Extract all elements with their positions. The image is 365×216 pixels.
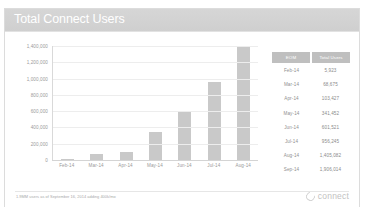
x-axis-tick-label: Jul-14 bbox=[199, 163, 228, 175]
grid-line bbox=[53, 95, 258, 96]
y-axis-tick-label: 600,000 bbox=[31, 109, 48, 114]
x-axis-tick-label: May-14 bbox=[140, 163, 169, 175]
bar[interactable] bbox=[208, 82, 221, 160]
cell-total-users: 341,452 bbox=[311, 111, 350, 116]
table-row: Aug-141,405,082 bbox=[272, 149, 350, 163]
bar[interactable] bbox=[149, 132, 162, 160]
table-header-total-users: Total Users bbox=[312, 52, 350, 63]
page-title: Total Connect Users bbox=[14, 12, 125, 26]
cell-eom: Apr-14 bbox=[272, 96, 311, 101]
x-axis-labels: Feb-14Mar-14Apr-14May-14Jun-14Jul-14Aug-… bbox=[52, 163, 258, 175]
table-row: Jul-14956,245 bbox=[272, 134, 350, 148]
cell-total-users: 103,427 bbox=[311, 96, 350, 101]
cell-eom: Aug-14 bbox=[272, 153, 311, 158]
cell-eom: Sep-14 bbox=[272, 167, 311, 172]
table-row: May-14341,452 bbox=[272, 106, 350, 120]
x-axis-tick-label: Feb-14 bbox=[52, 163, 81, 175]
x-axis-tick-label: Mar-14 bbox=[81, 163, 110, 175]
bar[interactable] bbox=[120, 152, 133, 160]
cell-total-users: 956,245 bbox=[311, 139, 350, 144]
y-axis-labels: 1,400,0001,200,0001,000,000800,000600,00… bbox=[17, 46, 50, 160]
cell-total-users: 68,675 bbox=[311, 82, 350, 87]
x-axis-line bbox=[52, 160, 258, 161]
brand-label: connect bbox=[318, 191, 349, 201]
x-axis-tick-label: Jun-14 bbox=[170, 163, 199, 175]
dashboard-card: Total Connect Users 1,400,0001,200,0001,… bbox=[4, 8, 360, 207]
grid-line bbox=[53, 46, 258, 47]
table-row: Sep-141,906,014 bbox=[272, 163, 350, 177]
cell-total-users: 1,405,082 bbox=[311, 153, 350, 158]
table-row: Jun-14601,521 bbox=[272, 120, 350, 134]
card-header: Total Connect Users bbox=[5, 9, 359, 32]
footnote: 1.9MM users as of September 16, 2014 add… bbox=[16, 194, 116, 199]
card-body: 1,400,0001,200,0001,000,000800,000600,00… bbox=[5, 32, 359, 207]
cell-eom: Jul-14 bbox=[272, 139, 311, 144]
page-top-strip bbox=[0, 0, 365, 7]
bar[interactable] bbox=[178, 111, 191, 160]
y-axis-tick-label: 0 bbox=[45, 158, 48, 163]
table-row: Apr-14103,427 bbox=[272, 92, 350, 106]
brand-logo: connect bbox=[306, 191, 349, 201]
grid-line bbox=[53, 79, 258, 80]
cell-total-users: 601,521 bbox=[311, 125, 350, 130]
cell-eom: Jun-14 bbox=[272, 125, 311, 130]
x-axis-tick-label: Apr-14 bbox=[111, 163, 140, 175]
table-header-eom: EOM bbox=[272, 52, 310, 63]
connect-circle-icon bbox=[304, 190, 317, 203]
table-header-row: EOM Total Users bbox=[272, 52, 350, 63]
cell-eom: May-14 bbox=[272, 111, 311, 116]
table-row: Feb-145,923 bbox=[272, 63, 350, 77]
grid-line bbox=[53, 62, 258, 63]
y-axis-tick-label: 400,000 bbox=[31, 125, 48, 130]
chart-plot-area bbox=[52, 46, 258, 160]
data-table: EOM Total Users Feb-145,923Mar-1468,675A… bbox=[272, 52, 350, 177]
y-axis-tick-label: 200,000 bbox=[31, 141, 48, 146]
cell-eom: Mar-14 bbox=[272, 82, 311, 87]
y-axis-tick-label: 800,000 bbox=[31, 92, 48, 97]
footer-divider bbox=[15, 191, 349, 192]
y-axis-tick-label: 1,200,000 bbox=[27, 60, 48, 65]
x-axis-tick-label: Aug-14 bbox=[229, 163, 258, 175]
grid-line bbox=[53, 144, 258, 145]
table-body: Feb-145,923Mar-1468,675Apr-14103,427May-… bbox=[272, 63, 350, 177]
cell-eom: Feb-14 bbox=[272, 68, 311, 73]
cell-total-users: 1,906,014 bbox=[311, 167, 350, 172]
cell-total-users: 5,923 bbox=[311, 68, 350, 73]
grid-line bbox=[53, 127, 258, 128]
table-row: Mar-1468,675 bbox=[272, 78, 350, 92]
bar-chart: 1,400,0001,200,0001,000,000800,000600,00… bbox=[17, 46, 260, 181]
y-axis-tick-label: 1,400,000 bbox=[27, 44, 48, 49]
grid-line bbox=[53, 111, 258, 112]
y-axis-tick-label: 1,000,000 bbox=[27, 76, 48, 81]
